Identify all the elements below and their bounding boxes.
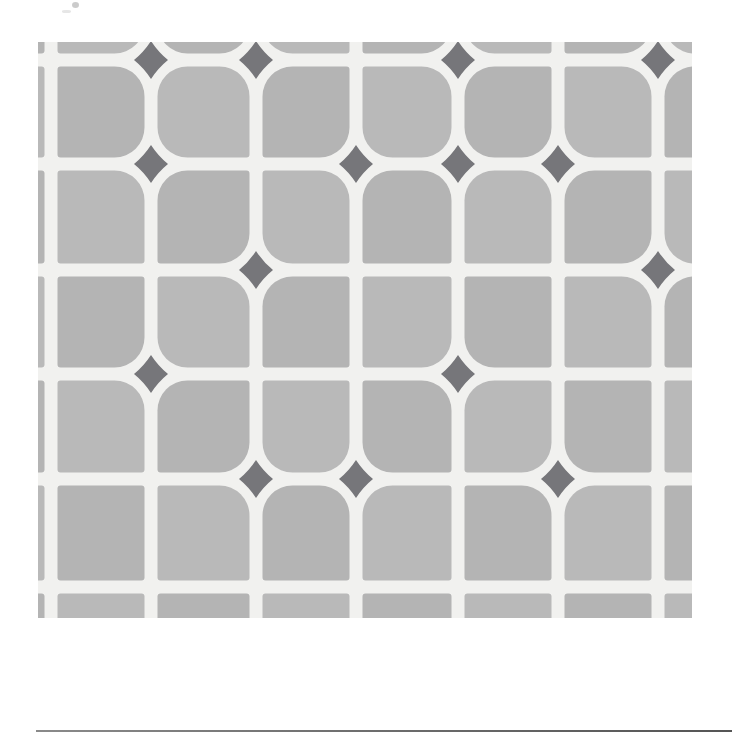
horizontal-rule bbox=[36, 730, 732, 732]
scan-artifact-smudge bbox=[62, 10, 71, 13]
arrow-marker-row bbox=[0, 630, 732, 696]
pattern-body bbox=[38, 42, 692, 618]
figure-root: Gray square tile pattern with white grou… bbox=[0, 0, 732, 745]
tile-pattern-image: Gray square tile pattern with white grou… bbox=[38, 42, 692, 618]
scan-artifact-speck bbox=[72, 2, 79, 8]
